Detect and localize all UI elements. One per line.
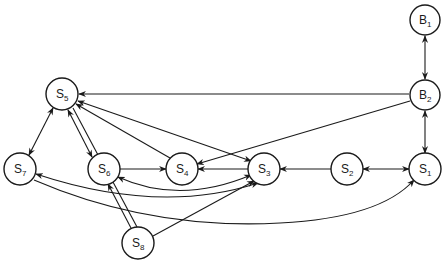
node-b2[interactable]: B2 — [410, 80, 440, 110]
node-s1[interactable]: S1 — [409, 153, 441, 185]
state-graph-diagram: B1 B2 S5 S7 S6 S4 S3 S2 — [0, 0, 447, 268]
node-s3[interactable]: S3 — [248, 153, 280, 185]
node-b1[interactable]: B1 — [410, 5, 440, 35]
edge-s4-s5 — [76, 104, 170, 158]
node-s2[interactable]: S2 — [331, 153, 363, 185]
node-s4[interactable]: S4 — [166, 153, 198, 185]
edge-s7-s1 — [34, 180, 414, 224]
node-s5[interactable]: S5 — [46, 78, 78, 110]
edge-b2-s4 — [197, 101, 410, 164]
nodes: B1 B2 S5 S7 S6 S4 S3 S2 — [4, 5, 441, 259]
edge-s5-s6-a — [68, 110, 92, 157]
node-s8[interactable]: S8 — [122, 227, 154, 259]
edge-s5-s7 — [29, 108, 53, 155]
edge-s5-s3 — [78, 101, 251, 161]
node-s6[interactable]: S6 — [88, 153, 120, 185]
node-s7[interactable]: S7 — [4, 153, 36, 185]
edge-s8-s6-a — [108, 184, 131, 228]
edge-s8-s6-b — [113, 182, 137, 227]
edges — [29, 36, 425, 236]
